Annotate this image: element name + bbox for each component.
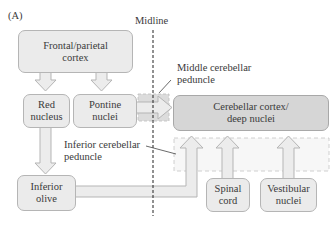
middle-peduncle-leader bbox=[159, 80, 171, 93]
node-vestibular-nuclei: Vestibular nuclei bbox=[260, 178, 317, 212]
node-red-nucleus: Red nucleus bbox=[23, 94, 70, 128]
node-label: Vestibular nuclei bbox=[267, 183, 310, 207]
inferior-peduncle-label: Inferior cerebellar peduncle bbox=[64, 139, 140, 162]
inferior-peduncle-leader bbox=[146, 146, 176, 154]
node-label: Cerebellar cortex/ deep nuclei bbox=[213, 101, 289, 125]
node-label: Spinal cord bbox=[215, 183, 242, 207]
arrow-red-to-olive bbox=[35, 127, 56, 174]
arrow-frontal-to-pontine bbox=[91, 72, 112, 91]
node-label: Pontine nuclei bbox=[89, 99, 121, 123]
node-label: Inferior olive bbox=[30, 181, 62, 205]
arrow-frontal-to-red bbox=[35, 72, 56, 91]
node-pontine-nuclei: Pontine nuclei bbox=[73, 94, 137, 128]
node-inferior-olive: Inferior olive bbox=[17, 175, 76, 211]
middle-peduncle-label: Middle cerebellar peduncle bbox=[177, 62, 251, 85]
node-frontal-parietal-cortex: Frontal/parietal cortex bbox=[18, 30, 133, 73]
midline-label: Midline bbox=[135, 15, 168, 27]
node-cerebellar-cortex-deep-nuclei: Cerebellar cortex/ deep nuclei bbox=[173, 95, 329, 131]
panel-label: (A) bbox=[8, 10, 23, 22]
node-spinal-cord: Spinal cord bbox=[206, 178, 250, 212]
node-label: Frontal/parietal cortex bbox=[43, 40, 108, 64]
node-label: Red nucleus bbox=[30, 99, 62, 123]
